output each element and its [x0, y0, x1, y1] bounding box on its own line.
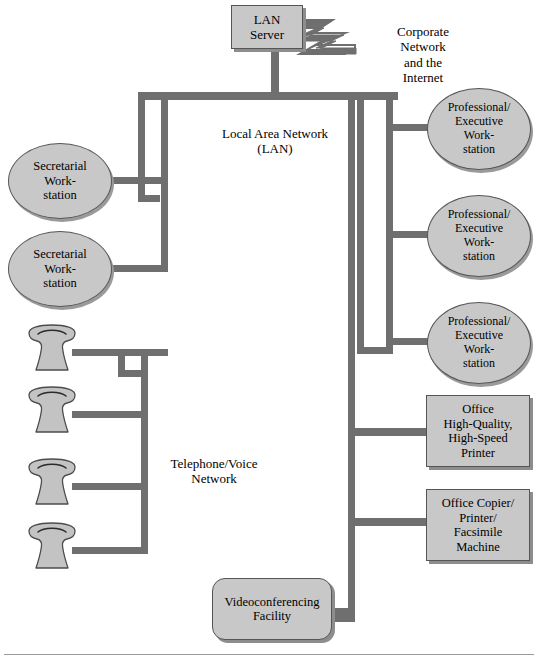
node-telephone-2[interactable] — [22, 384, 78, 432]
link-telephone-4 — [72, 547, 147, 554]
node-telephone-3[interactable] — [22, 456, 78, 504]
node-videoconferencing-facility-label: Videoconferencing Facility — [221, 595, 322, 624]
label-telephone-voice-network-text: Telephone/Voice Network — [171, 456, 258, 487]
node-professional-workstation-1[interactable]: Professional/ Executive Work- station — [427, 88, 531, 170]
network-diagram-canvas: LAN Server Corporate Network and the Int… — [0, 0, 538, 666]
node-professional-workstation-2-label: Professional/ Executive Work- station — [445, 208, 514, 264]
node-lan-server-label: LAN Server — [247, 12, 287, 42]
link-secretarial-2 — [105, 265, 165, 272]
label-telephone-voice-network: Telephone/Voice Network — [150, 440, 278, 487]
node-secretarial-workstation-1[interactable]: Secretarial Work- station — [8, 143, 112, 219]
node-professional-workstation-3-label: Professional/ Executive Work- station — [445, 315, 514, 371]
link-secretarial-1 — [105, 177, 165, 184]
node-professional-workstation-1-label: Professional/ Executive Work- station — [445, 101, 514, 157]
label-local-area-network-text: Local Area Network (LAN) — [222, 126, 328, 157]
node-secretarial-workstation-2-label: Secretarial Work- station — [30, 247, 89, 291]
link-lan-server-to-bus — [271, 50, 279, 94]
node-office-printer-label: Office High-Quality, High-Speed Printer — [441, 402, 516, 460]
lan-bus-left-outer — [138, 92, 145, 202]
label-corporate-network-text: Corporate Network and the Internet — [397, 24, 449, 86]
node-videoconferencing-facility[interactable]: Videoconferencing Facility — [212, 578, 332, 640]
lan-bus-workstation-feeder — [386, 92, 393, 354]
link-lan-bus-left-outer-bottom — [138, 195, 160, 202]
link-telephone-3 — [72, 483, 147, 490]
link-telephone-2 — [72, 411, 147, 418]
link-telephone-1 — [72, 349, 147, 356]
node-secretarial-workstation-1-label: Secretarial Work- station — [30, 159, 89, 203]
node-office-printer[interactable]: Office High-Quality, High-Speed Printer — [426, 395, 530, 467]
lan-bus-workstation-feeder-bottom — [357, 347, 392, 354]
lightning-connector-icon — [296, 17, 368, 55]
voice-bus-trunk — [141, 349, 148, 554]
node-telephone-4[interactable] — [22, 520, 78, 568]
node-professional-workstation-3[interactable]: Professional/ Executive Work- station — [427, 302, 531, 384]
link-copier — [348, 518, 428, 526]
node-telephone-1[interactable] — [22, 322, 78, 370]
link-printer — [348, 428, 428, 436]
node-office-copier-label: Office Copier/ Printer/ Facsimile Machin… — [439, 496, 517, 554]
lan-bus-right-outer — [348, 92, 355, 622]
label-corporate-network: Corporate Network and the Internet — [368, 8, 478, 86]
node-professional-workstation-2[interactable]: Professional/ Executive Work- station — [427, 195, 531, 277]
node-secretarial-workstation-2[interactable]: Secretarial Work- station — [8, 231, 112, 307]
node-office-copier[interactable]: Office Copier/ Printer/ Facsimile Machin… — [426, 489, 530, 561]
node-lan-server[interactable]: LAN Server — [231, 5, 303, 49]
page-divider — [4, 654, 534, 655]
label-local-area-network: Local Area Network (LAN) — [195, 110, 355, 157]
lan-bus-right-inner — [357, 92, 364, 352]
